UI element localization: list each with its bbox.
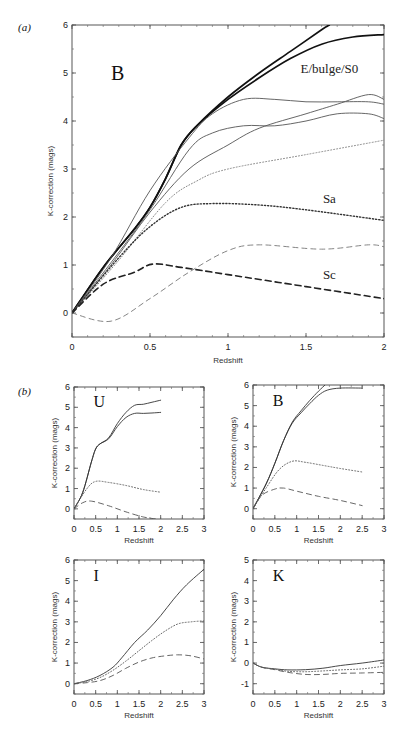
x-tick-label: 1.5 (300, 342, 313, 352)
y-tick-label: 1 (244, 637, 249, 647)
y-tick-label: 0 (244, 504, 249, 514)
y-tick-label: 2 (65, 463, 70, 473)
y-tick-label: 4 (244, 421, 249, 431)
panel-a-label: (a) (18, 21, 31, 34)
data-series-line (253, 663, 384, 672)
x-tick-label: 1.5 (133, 524, 146, 534)
chart-i: 00.511.522.530123456RedshiftK-correction… (50, 555, 207, 720)
data-series-line (74, 621, 204, 684)
x-tick-label: 2.5 (176, 699, 189, 709)
y-axis-label: K-correction (mags) (50, 418, 59, 489)
data-series-line (72, 95, 384, 313)
y-tick-label: 0 (65, 504, 70, 514)
y-tick-label: -1 (241, 679, 249, 689)
panel-b-label: (b) (18, 385, 31, 398)
y-tick-label: 6 (63, 20, 68, 30)
chart-b: 00.511.522.530123456RedshiftK-correction… (229, 380, 387, 545)
y-tick-label: 5 (244, 555, 249, 565)
curve-annotation: Sc (323, 267, 336, 282)
x-tick-label: 2 (158, 524, 163, 534)
data-series-line (74, 501, 156, 519)
x-tick-label: 2 (381, 342, 386, 352)
x-tick-label: 3 (201, 524, 206, 534)
band-label: U (94, 393, 106, 410)
curve-annotation: E/bulge/S0 (301, 61, 359, 76)
x-tick-label: 1 (115, 699, 120, 709)
x-tick-label: 1.5 (312, 699, 325, 709)
y-tick-label: 5 (65, 576, 70, 586)
data-series-line (72, 264, 384, 313)
y-tick-label: 6 (65, 382, 70, 392)
x-tick-label: 1 (225, 342, 230, 352)
y-axis-label: K-correction (mags) (46, 146, 55, 217)
y-tick-label: 6 (65, 555, 70, 565)
y-tick-label: 0 (63, 308, 68, 318)
x-tick-label: 1.5 (133, 699, 146, 709)
data-series-line (74, 412, 161, 508)
x-tick-label: 1 (294, 699, 299, 709)
y-tick-label: 4 (63, 116, 68, 126)
data-series-line (253, 388, 362, 509)
y-axis-label: K-correction (mags) (50, 592, 59, 663)
chart-k: 00.511.522.53-1012345RedshiftK-correctio… (229, 555, 387, 720)
x-tick-label: 0.5 (144, 342, 157, 352)
x-axis-label: Redshift (124, 536, 154, 545)
x-tick-label: 1.5 (312, 524, 325, 534)
y-tick-label: 2 (244, 617, 249, 627)
x-tick-label: 0 (71, 699, 76, 709)
y-tick-label: 2 (63, 212, 68, 222)
data-series-line (74, 481, 161, 509)
x-tick-label: 0 (250, 524, 255, 534)
x-tick-label: 0.5 (89, 699, 102, 709)
x-tick-label: 0 (69, 342, 74, 352)
y-tick-label: 2 (65, 637, 70, 647)
x-axis-label: Redshift (213, 356, 243, 365)
y-tick-label: 3 (244, 442, 249, 452)
y-tick-label: 3 (65, 443, 70, 453)
y-tick-label: 2 (244, 462, 249, 472)
curve-annotation: Sa (323, 191, 336, 206)
x-tick-label: 2 (338, 699, 343, 709)
x-tick-label: 3 (201, 699, 206, 709)
x-axis-label: Redshift (304, 536, 334, 545)
x-tick-label: 2 (338, 524, 343, 534)
band-label: B (111, 62, 124, 84)
y-tick-label: 5 (65, 402, 70, 412)
x-axis-label: Redshift (124, 711, 154, 720)
x-tick-label: 2.5 (356, 699, 369, 709)
x-axis-label: Redshift (304, 711, 334, 720)
y-axis-label: K-correction (mags) (229, 592, 238, 663)
x-tick-label: 0 (250, 699, 255, 709)
data-series-line (72, 140, 384, 313)
y-tick-label: 4 (65, 423, 70, 433)
x-tick-label: 2 (158, 699, 163, 709)
data-series-line (72, 98, 384, 313)
data-series-line (74, 400, 161, 509)
data-series-line (74, 569, 204, 683)
band-label: I (94, 567, 99, 584)
data-series-line (72, 113, 384, 313)
chart-u: 00.511.522.530123456RedshiftK-correction… (50, 382, 207, 545)
y-tick-label: 3 (65, 617, 70, 627)
x-tick-label: 1 (294, 524, 299, 534)
x-tick-label: 2.5 (176, 524, 189, 534)
band-label: K (273, 567, 285, 584)
y-tick-label: 5 (63, 68, 68, 78)
x-tick-label: 0.5 (269, 524, 282, 534)
x-tick-label: 3 (381, 699, 386, 709)
band-label: B (273, 392, 284, 409)
data-series-line (253, 488, 362, 509)
y-tick-label: 1 (65, 484, 70, 494)
y-tick-label: 0 (244, 658, 249, 668)
x-tick-label: 2.5 (356, 524, 369, 534)
y-axis-label: K-correction (mags) (229, 417, 238, 488)
chart-b-main: 00.511.520123456RedshiftK-correction (ma… (46, 20, 387, 365)
data-series-line (72, 203, 384, 313)
data-series-line (72, 245, 384, 322)
y-tick-label: 4 (244, 576, 249, 586)
data-series-line (253, 385, 325, 509)
y-tick-label: 0 (65, 679, 70, 689)
plots: 00.511.520123456RedshiftK-correction (ma… (46, 20, 387, 720)
x-tick-label: 1 (115, 524, 120, 534)
y-tick-label: 6 (244, 380, 249, 390)
